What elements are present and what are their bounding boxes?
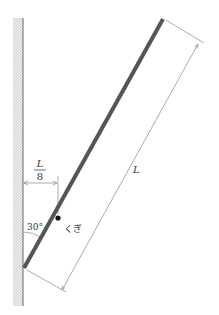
fraction-denominator: 8 — [37, 171, 43, 182]
extension-line-bottom — [27, 270, 66, 292]
length-label: L — [132, 164, 140, 175]
extension-line-top — [166, 20, 204, 43]
angle-arc — [23, 232, 41, 237]
fraction-numerator: L — [36, 158, 44, 169]
nail-icon — [55, 215, 60, 220]
wall-hatching — [13, 18, 23, 306]
rod-on-wall-diagram: L 8 30° L くぎ — [0, 0, 219, 315]
nail-label: くぎ — [64, 223, 82, 234]
length-dimension — [27, 20, 204, 292]
rod — [24, 19, 163, 268]
wall — [13, 18, 23, 306]
angle-label: 30° — [27, 222, 43, 232]
